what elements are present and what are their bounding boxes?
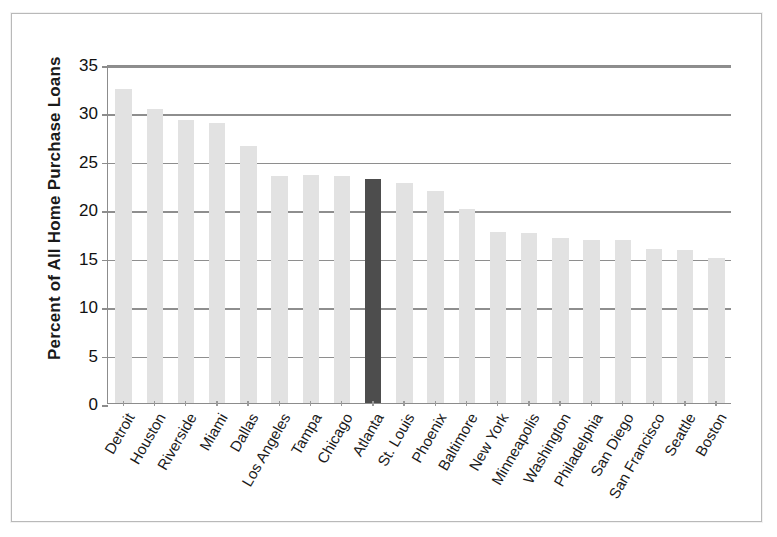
bar-phoenix — [427, 191, 443, 403]
bar-washington — [552, 238, 568, 403]
y-axis-tick-label: 0 — [62, 396, 98, 413]
x-axis-label-slot: Miami — [201, 406, 232, 524]
x-axis-tick-mark — [372, 401, 374, 406]
x-axis-tick-mark — [653, 401, 655, 406]
bar-san-diego — [615, 240, 631, 403]
bar-philadelphia — [583, 240, 599, 403]
x-axis-tick-mark — [528, 401, 530, 406]
x-axis-tick-mark — [310, 401, 312, 406]
chart-figure: Percent of All Home Purchase Loans 05101… — [0, 0, 777, 537]
bar-boston — [708, 258, 724, 403]
x-axis-tick-mark — [154, 401, 156, 406]
x-axis-tick-label: Miami — [196, 410, 231, 453]
x-axis-tick-mark — [559, 401, 561, 406]
x-axis-tick-mark — [715, 401, 717, 406]
x-axis-label-slot: Chicago — [325, 406, 356, 524]
bar-seattle — [677, 250, 693, 403]
x-axis-tick-mark — [591, 401, 593, 406]
x-axis-label-slot: Detroit — [107, 406, 138, 524]
bar-tampa — [303, 175, 319, 403]
x-axis-label-slot: San Francisco — [637, 406, 668, 524]
bar-atlanta — [365, 179, 381, 403]
x-axis-tick-mark — [684, 401, 686, 406]
bar-baltimore — [459, 209, 475, 403]
x-axis-label-slot: Riverside — [169, 406, 200, 524]
bar-riverside — [178, 120, 194, 403]
x-axis-label-slot: St. Louis — [388, 406, 419, 524]
x-axis-tick-mark — [497, 401, 499, 406]
x-axis-tick-mark — [123, 401, 125, 406]
bar-minneapolis — [521, 233, 537, 403]
x-axis-tick-mark — [435, 401, 437, 406]
plot-area — [107, 65, 731, 404]
y-axis-tick-label: 5 — [62, 347, 98, 364]
x-axis-tick-mark — [185, 401, 187, 406]
y-axis-tick-label: 20 — [62, 202, 98, 219]
bar-houston — [147, 109, 163, 403]
y-axis-tick-labels: 05101520253035 — [62, 56, 98, 404]
x-axis-tick-labels: DetroitHoustonRiversideMiamiDallasLos An… — [107, 406, 731, 526]
x-axis-tick-mark — [466, 401, 468, 406]
bar-los-angeles — [271, 176, 287, 403]
y-axis-tick-label: 25 — [62, 153, 98, 170]
bar-detroit — [115, 89, 131, 403]
x-axis-tick-mark — [622, 401, 624, 406]
bars-group — [108, 66, 731, 403]
x-axis-tick-mark — [341, 401, 343, 406]
y-axis-tick-label: 10 — [62, 299, 98, 316]
x-axis-tick-mark — [403, 401, 405, 406]
bar-chicago — [334, 176, 350, 403]
x-axis-tick-mark — [216, 401, 218, 406]
y-axis-tick-label: 35 — [62, 57, 98, 74]
x-axis-label-slot: Los Angeles — [263, 406, 294, 524]
y-axis-tick-label: 15 — [62, 250, 98, 267]
x-axis-label-slot: Boston — [700, 406, 731, 524]
bar-dallas — [240, 146, 256, 403]
bar-new-york — [490, 232, 506, 403]
bar-miami — [209, 123, 225, 403]
x-axis-label-slot: Seattle — [669, 406, 700, 524]
bar-san-francisco — [646, 249, 662, 403]
x-axis-tick-mark — [247, 401, 249, 406]
x-axis-tick-mark — [279, 401, 281, 406]
x-axis-label-slot: Tampa — [294, 406, 325, 524]
y-axis-tick-label: 30 — [62, 105, 98, 122]
bar-st-louis — [396, 183, 412, 403]
